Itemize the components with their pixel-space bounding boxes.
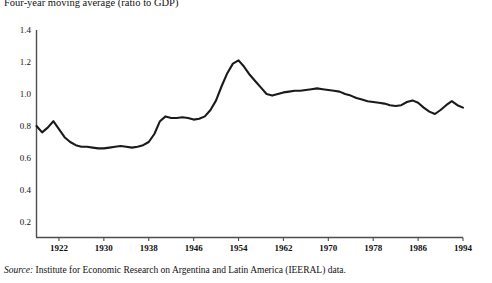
- x-tick-label: 1954: [219, 244, 259, 253]
- y-tick-label: 0.2: [5, 218, 31, 227]
- y-tick-label: 0.4: [5, 186, 31, 195]
- x-tick-label: 1922: [39, 244, 79, 253]
- source-text: Institute for Economic Research on Argen…: [36, 265, 346, 275]
- y-tick-label: 0.6: [5, 154, 31, 163]
- figure-container: Four-year moving average (ratio to GDP) …: [0, 0, 492, 283]
- y-tick-label: 1.0: [5, 90, 31, 99]
- y-tick-label: 1.2: [5, 58, 31, 67]
- x-tick-label: 1986: [398, 244, 438, 253]
- x-tick-label: 1946: [174, 244, 214, 253]
- x-tick-label: 1938: [129, 244, 169, 253]
- source-note: Source: Institute for Economic Research …: [4, 264, 346, 276]
- x-tick-label: 1930: [84, 244, 124, 253]
- plot-area: 0.20.40.60.81.01.21.4 192219301938194619…: [0, 0, 492, 283]
- x-tick-label: 1978: [353, 244, 393, 253]
- line-chart: [0, 0, 492, 283]
- x-tick-label: 1970: [308, 244, 348, 253]
- y-tick-label: 0.8: [5, 122, 31, 131]
- x-tick-label: 1962: [263, 244, 303, 253]
- data-line-series-0: [37, 60, 464, 148]
- x-tick-label: 1994: [443, 244, 483, 253]
- y-tick-label: 1.4: [5, 26, 31, 35]
- source-label: Source:: [4, 265, 33, 275]
- axes: [36, 30, 463, 238]
